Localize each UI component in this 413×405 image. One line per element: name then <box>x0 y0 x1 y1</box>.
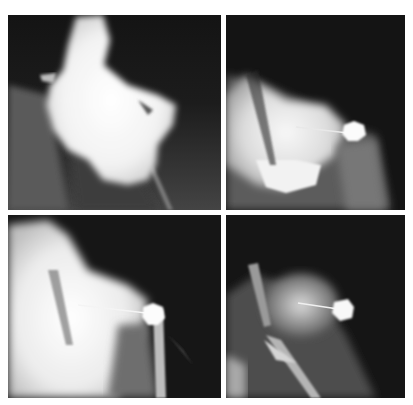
radiograph-image <box>8 215 221 398</box>
radiograph-panel-top-left: Radiograph panel 1 - contrast-filled bri… <box>8 15 221 210</box>
radiograph-panel-top-right: Radiograph panel 2 - bright mass with pi… <box>226 15 405 210</box>
radiograph-panel-bottom-left: Radiograph panel 3 - bright mass with pi… <box>8 215 221 398</box>
radiograph-image <box>8 15 221 210</box>
radiograph-image <box>226 215 405 398</box>
radiograph-image <box>226 15 405 210</box>
radiograph-panel-bottom-right: Radiograph panel 4 - pin-head marker wit… <box>226 215 405 398</box>
